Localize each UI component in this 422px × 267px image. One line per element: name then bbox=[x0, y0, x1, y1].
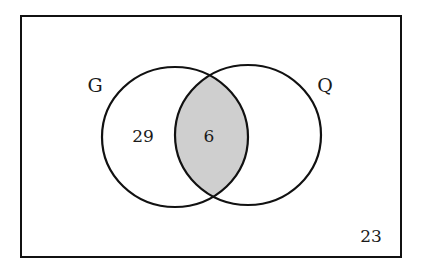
venn-diagram: G Q 29 6 23 bbox=[0, 0, 422, 267]
set-q-label: Q bbox=[317, 74, 333, 96]
set-g-label: G bbox=[87, 74, 102, 96]
g-only-count: 29 bbox=[132, 126, 154, 146]
intersection-count: 6 bbox=[204, 126, 215, 146]
venn-diagram-canvas: G Q 29 6 23 bbox=[0, 0, 422, 267]
outside-count: 23 bbox=[360, 226, 382, 246]
